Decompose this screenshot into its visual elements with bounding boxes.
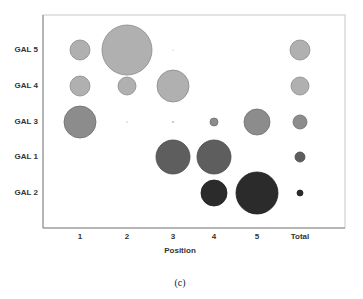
bubble [172,49,173,50]
bubble [290,40,310,60]
bubble [118,77,136,95]
bubble [156,140,190,174]
bubble [201,180,227,206]
bubble [64,106,96,138]
bubble [295,152,305,162]
x-tick-label: Total [285,232,315,241]
bubble [157,70,189,102]
figure-caption: (c) [160,277,200,288]
x-tick-label: 2 [112,232,142,241]
x-tick-label: 1 [65,232,95,241]
x-axis-title: Position [150,246,210,255]
bubble [210,118,218,126]
bubble [172,121,174,123]
bubble [236,172,278,214]
y-tick-label: GAL 4 [2,81,38,90]
y-tick-label: GAL 3 [2,117,38,126]
bubble [197,140,231,174]
x-tick-label: 5 [242,232,272,241]
bubble [291,77,309,95]
x-tick-label: 3 [158,232,188,241]
bubble [297,190,303,196]
y-tick-label: GAL 5 [2,45,38,54]
bubble [126,121,127,122]
bubble [102,25,152,75]
bubble [70,76,90,96]
x-tick-label: 4 [199,232,229,241]
y-tick-label: GAL 1 [2,152,38,161]
bubble [70,40,90,60]
bubble [244,109,270,135]
bubble [293,115,307,129]
y-tick-label: GAL 2 [2,188,38,197]
